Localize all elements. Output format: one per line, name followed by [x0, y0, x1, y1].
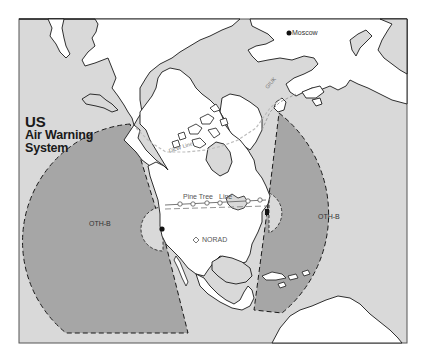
label-oth-b-west: OTH-B — [89, 220, 111, 227]
label-oth-b-east: OTH-B — [318, 213, 340, 220]
west-radar-site-icon — [159, 226, 164, 231]
label-moscow: Moscow — [292, 29, 318, 36]
title-line-3: System — [25, 142, 93, 155]
moscow-marker-icon — [287, 31, 292, 36]
label-pine-tree: Pine Tree — [183, 193, 213, 200]
east-radar-site-icon — [265, 209, 269, 215]
label-norad: NORAD — [202, 236, 227, 243]
air-warning-map — [0, 0, 424, 358]
map-title: US Air Warning System — [25, 114, 93, 155]
label-pine-tree-line: Line — [219, 193, 232, 200]
title-line-1: US — [25, 114, 93, 129]
